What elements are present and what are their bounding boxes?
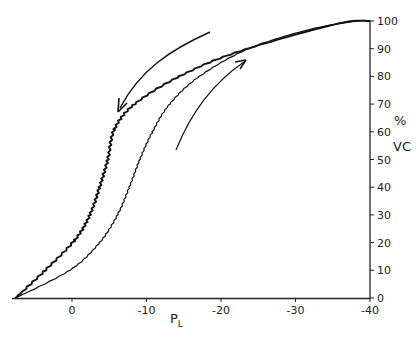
x-axis-label: PL (170, 311, 183, 329)
x-tick-label: -30 (287, 304, 305, 317)
plot-area (15, 20, 370, 298)
x-axis-ticks: 0-10-20-30-40 (69, 298, 379, 317)
deflation-arrow-icon (120, 32, 210, 108)
y-axis-label-percent: % (394, 113, 406, 128)
inflation-curve (15, 20, 370, 298)
y-tick-label: 30 (377, 209, 391, 222)
x-tick-label: 0 (69, 304, 76, 317)
y-tick-label: 0 (377, 292, 384, 305)
hysteresis-curves (15, 20, 370, 298)
y-tick-label: 90 (377, 43, 391, 56)
y-tick-label: 20 (377, 237, 391, 250)
y-tick-label: 10 (377, 264, 391, 277)
deflation-arrowhead-icon (118, 98, 127, 112)
pressure-volume-chart: 0-10-20-30-40 0102030405060708090100 PL … (0, 0, 419, 345)
x-tick-label: -20 (212, 304, 230, 317)
y-axis-label-vc: VC (393, 139, 411, 154)
y-tick-label: 60 (377, 126, 391, 139)
y-tick-label: 100 (377, 15, 398, 28)
deflation-curve (15, 21, 370, 298)
x-tick-label: -10 (138, 304, 156, 317)
y-axis-ticks: 0102030405060708090100 (370, 15, 398, 305)
y-tick-label: 80 (377, 70, 391, 83)
y-tick-label: 50 (377, 154, 391, 167)
y-tick-label: 70 (377, 98, 391, 111)
x-tick-label: -40 (361, 304, 379, 317)
y-tick-label: 40 (377, 181, 391, 194)
inflation-arrow-icon (176, 62, 244, 150)
